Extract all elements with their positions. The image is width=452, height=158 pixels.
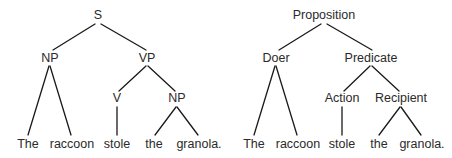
tree-edges — [254, 24, 421, 135]
edge-recipient-the — [379, 107, 400, 135]
edge-proposition-predicate — [327, 24, 372, 50]
word-stole: stole — [329, 137, 355, 151]
tree-words: The raccoon stole the granola. — [17, 137, 221, 151]
edge-recipient-granola — [401, 107, 421, 135]
node-predicate: Predicate — [345, 51, 398, 65]
tree-words: The raccoon stole the granola. — [243, 137, 444, 151]
edge-vp-v — [119, 66, 146, 91]
parse-tree-diagram: S NP VP V NP The raccoon stole the grano… — [0, 0, 452, 158]
word-the-2: the — [145, 137, 162, 151]
edge-s-vp — [101, 24, 146, 50]
edge-proposition-doer — [279, 24, 321, 50]
word-the: The — [17, 137, 39, 151]
edge-doer-raccoon — [276, 66, 297, 135]
semantic-tree: Proposition Doer Predicate Action Recipi… — [243, 8, 444, 151]
word-raccoon: raccoon — [276, 137, 321, 151]
node-proposition: Proposition — [293, 8, 356, 22]
edge-np-raccoon — [50, 66, 71, 135]
node-np: NP — [41, 51, 58, 65]
edge-np2-granola — [177, 107, 198, 135]
tree-nodes: Proposition Doer Predicate Action Recipi… — [262, 8, 427, 105]
word-granola: granola. — [399, 137, 444, 151]
node-v: V — [113, 91, 122, 105]
word-raccoon: raccoon — [50, 137, 95, 151]
node-np2: NP — [168, 91, 185, 105]
node-action: Action — [325, 91, 360, 105]
node-recipient: Recipient — [375, 91, 428, 105]
tree-nodes: S NP VP V NP — [41, 8, 185, 105]
edge-predicate-recipient — [372, 66, 399, 91]
edge-doer-the — [254, 66, 275, 135]
edge-np2-the — [155, 107, 176, 135]
syntactic-tree: S NP VP V NP The raccoon stole the grano… — [17, 8, 221, 151]
tree-edges — [28, 24, 198, 135]
edge-s-np — [53, 24, 95, 50]
edge-np-the — [28, 66, 49, 135]
word-the-2: the — [370, 137, 387, 151]
node-vp: VP — [139, 51, 156, 65]
node-doer: Doer — [262, 51, 289, 65]
word-granola: granola. — [176, 137, 221, 151]
node-s: S — [94, 8, 102, 22]
edge-predicate-action — [344, 66, 370, 91]
edge-vp-np2 — [148, 66, 175, 91]
word-the: The — [243, 137, 265, 151]
word-stole: stole — [104, 137, 130, 151]
